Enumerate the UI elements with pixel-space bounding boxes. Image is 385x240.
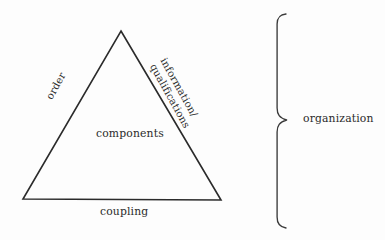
curly-brace (277, 14, 287, 228)
triangle-bottom-edge-label: coupling (100, 206, 148, 219)
diagram-canvas: components coupling order information/ q… (0, 0, 385, 240)
triangle-center-label: components (96, 128, 164, 141)
brace-label-organization: organization (303, 113, 374, 126)
